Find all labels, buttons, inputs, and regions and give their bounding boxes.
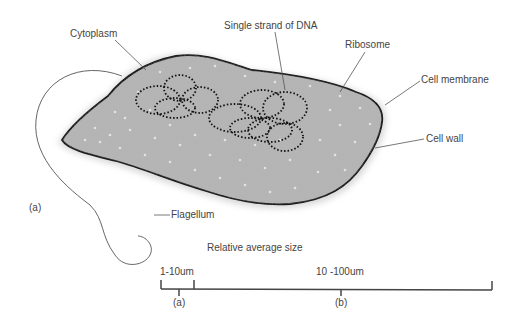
cell-wall-pointer — [375, 139, 424, 148]
label-cell-membrane: Cell membrane — [421, 75, 489, 85]
cytoplasm-pointer — [115, 40, 146, 70]
label-dna: Single strand of DNA — [224, 21, 317, 31]
label-flagellum: Flagellum — [171, 210, 214, 220]
bacterial-cell-diagram — [0, 0, 516, 328]
label-cell-wall: Cell wall — [426, 134, 463, 144]
scale-marker-a: (a) — [173, 298, 185, 308]
scale-range-b: 10 -100um — [316, 267, 364, 277]
scale-marker-b: (b) — [335, 298, 347, 308]
scale-title: Relative average size — [207, 243, 303, 253]
panel-label: (a) — [29, 203, 41, 213]
scale-range-a: 1-10um — [160, 267, 194, 277]
cell-membrane-pointer — [385, 81, 420, 105]
ribosome-pointer — [340, 52, 365, 92]
label-cytoplasm: Cytoplasm — [70, 29, 117, 39]
size-scale-bar — [161, 280, 492, 296]
label-ribosome: Ribosome — [345, 40, 390, 50]
